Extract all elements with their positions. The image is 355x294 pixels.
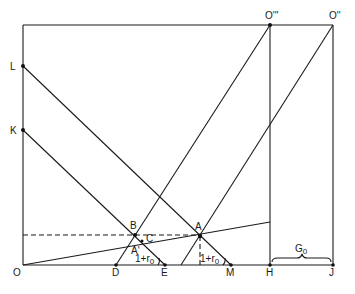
label-B: B	[130, 220, 137, 231]
point-A	[198, 234, 202, 238]
label-K: K	[10, 125, 17, 136]
diagram-canvas: L K O O''' O'' A B C A' D E M H J 1+r0 1…	[0, 0, 355, 294]
label-G0: G0	[295, 243, 308, 256]
label-O: O	[13, 267, 21, 278]
label-D: D	[112, 267, 119, 278]
label-angle-right: 1+r0	[200, 253, 220, 266]
brace-G0	[272, 254, 331, 262]
label-J: J	[329, 267, 334, 278]
label-E: E	[161, 267, 168, 278]
line-O2	[181, 25, 333, 265]
point-C	[141, 240, 144, 243]
label-A: A	[195, 221, 202, 232]
point-K	[21, 128, 25, 132]
point-L	[21, 64, 25, 68]
line-K-E	[23, 130, 165, 265]
label-M: M	[226, 267, 234, 278]
point-O3	[268, 23, 272, 27]
label-H: H	[266, 267, 273, 278]
label-C: C	[146, 233, 153, 244]
point-B	[133, 233, 137, 237]
label-L: L	[10, 61, 16, 72]
label-O2: O''	[329, 10, 341, 21]
label-angle-left: 1+r0	[135, 253, 155, 266]
label-O3: O'''	[265, 10, 279, 21]
